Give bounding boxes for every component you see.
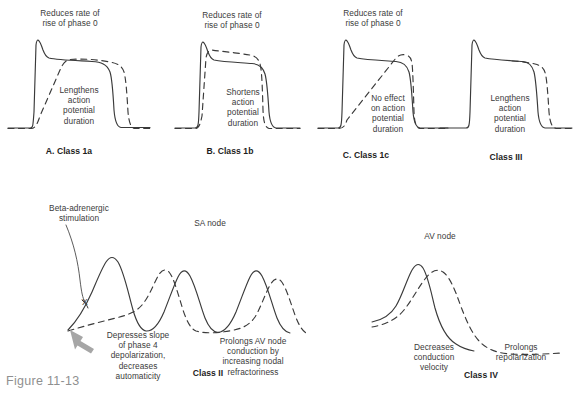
class-1c-inner-annotation: No effect on action potential duration	[357, 93, 419, 134]
class-2-label: Class II	[178, 368, 238, 378]
phase-4-annotation-arrow	[70, 330, 94, 354]
class-1c-top-annotation: Reduces rate of rise of phase 0	[321, 8, 425, 28]
x-marker-label: X	[78, 297, 92, 307]
prolongs-repolarization-annotation: Prolongs repolarization	[483, 342, 559, 362]
class-4-label: Class IV	[450, 370, 512, 380]
beta-adrenergic-leader-line	[66, 225, 85, 302]
class-3-inner-annotation: Lengthens action potential duration	[479, 93, 541, 134]
class-1a-inner-annotation: Lengthens action potential duration	[48, 85, 110, 126]
class-3-label: Class III	[456, 152, 556, 162]
class-1b-label: B. Class 1b	[180, 146, 280, 156]
class-1c-label: C. Class 1c	[316, 150, 416, 160]
class-4-control-trace	[372, 265, 474, 351]
conduction-velocity-annotation: Decreases conduction velocity	[398, 342, 470, 373]
av-node-label: AV node	[390, 231, 490, 241]
figure-container: Reduces rate of rise of phase 0 Lengthen…	[0, 0, 578, 398]
beta-adrenergic-annotation: Beta-adrenergic stimulation	[32, 203, 126, 223]
class-1b-top-annotation: Reduces rate of rise of phase 0	[180, 10, 284, 30]
class-1a-top-annotation: Reduces rate of rise of phase 0	[18, 8, 122, 28]
phase-4-annotation: Depresses slope of phase 4 depolarizatio…	[96, 330, 180, 381]
sa-node-label: SA node	[150, 218, 270, 228]
figure-caption: Figure 11-13	[6, 374, 80, 388]
panel-class-4-traces	[372, 265, 562, 355]
class-1a-label: A. Class 1a	[19, 146, 119, 156]
class-1b-inner-annotation: Shortens action potential duration	[212, 87, 274, 128]
